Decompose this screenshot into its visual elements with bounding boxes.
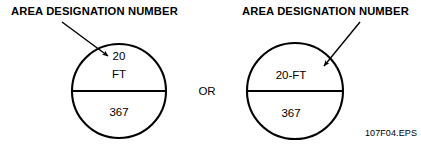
left-circle-top-value: 20 [99,50,139,62]
conjunction-label: OR [189,85,225,97]
left-circle-bottom-value: 367 [99,106,139,118]
right-callout-label: AREA DESIGNATION NUMBER [242,5,409,18]
figure-area-designation-symbols: AREA DESIGNATION NUMBER 20 FT 367 OR ARE… [0,0,421,156]
right-leader-arrow [324,22,360,66]
right-circle-bottom-value: 367 [261,107,321,119]
figure-id-caption: 107F04.EPS [337,128,417,138]
left-circle-top-unit: FT [99,68,139,80]
left-callout-label: AREA DESIGNATION NUMBER [11,5,178,18]
right-circle-top-value: 20-FT [256,69,326,81]
